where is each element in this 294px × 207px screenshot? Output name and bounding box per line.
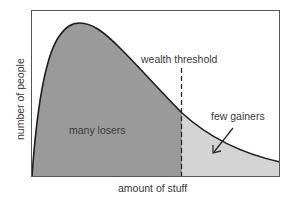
gainers-area [182, 113, 280, 176]
x-axis-label: amount of stuff [118, 182, 187, 194]
gainers-label: few gainers [211, 110, 265, 122]
y-axis-label: number of people [14, 58, 26, 140]
wealth-distribution-diagram: wealth threshold many losers few gainers… [0, 0, 294, 207]
losers-label: many losers [69, 124, 126, 136]
threshold-label: wealth threshold [140, 53, 218, 65]
